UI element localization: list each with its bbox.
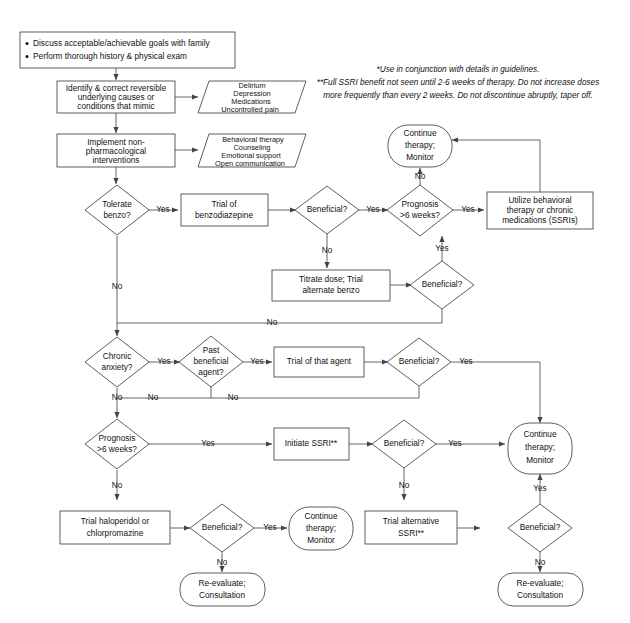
- chronic-line-2: anxiety?: [102, 362, 133, 372]
- node-beneficial-6[interactable]: Beneficial?: [508, 504, 572, 552]
- node-chronic-anxiety[interactable]: Chronic anxiety?: [85, 337, 149, 387]
- guideline-notes: *Use in conjunction with details in guid…: [317, 65, 599, 100]
- note-line-1: *Use in conjunction with details in guid…: [377, 65, 540, 74]
- continue2-line-3: Monitor: [526, 455, 554, 465]
- node-reeval-1[interactable]: Re-evaluate; Consultation: [180, 573, 265, 606]
- edge-label-beneficial4-yes: Yes: [448, 439, 461, 448]
- titrate-line-1: Titrate dose; Trial: [299, 274, 363, 284]
- identify-line-3: conditions that mimic: [77, 101, 154, 111]
- reeval1-line-1: Re-evaluate;: [198, 578, 245, 588]
- node-continue-2[interactable]: Continue therapy; Monitor: [508, 423, 572, 474]
- tolerate-line-1: Tolerate: [102, 199, 132, 209]
- edge-label-beneficial5-no: No: [217, 558, 228, 567]
- edge-label-prognosis2-yes: Yes: [201, 439, 214, 448]
- connector-utilize-to-continue1: [452, 140, 540, 192]
- edge-label-prognosis2-no: No: [112, 481, 123, 490]
- reeval1-line-2: Consultation: [199, 590, 246, 600]
- continue3-line-3: Monitor: [307, 535, 335, 545]
- node-trial-benzo[interactable]: Trial of benzodiazepine: [181, 194, 268, 226]
- prognosis2-line-2: >6 weeks?: [97, 444, 137, 454]
- continue2-line-1: Continue: [523, 429, 557, 439]
- titrate-line-2: alternate benzo: [302, 285, 360, 295]
- start-bullet-2: Perform thorough history & physical exam: [33, 51, 187, 61]
- node-mimic-list[interactable]: Delirium Depression Medications Uncontro…: [198, 81, 306, 114]
- edge-label-chronic-yes: Yes: [157, 357, 170, 366]
- node-past-agent[interactable]: Past beneficial agent?: [179, 336, 243, 387]
- flowchart-svg: Yes Yes Yes No No Yes No No Yes Yes Yes …: [0, 0, 630, 623]
- edge-label-chronic-no: No: [112, 393, 123, 402]
- halo-line-1: Trial haloperidol or: [81, 516, 150, 526]
- continue1-line-2: therapy;: [405, 140, 435, 150]
- node-trial-alt-ssri[interactable]: Trial alternative SSRI**: [365, 511, 457, 544]
- continue2-line-2: therapy;: [525, 442, 555, 452]
- reeval2-line-2: Consultation: [517, 590, 564, 600]
- continue1-line-1: Continue: [403, 128, 437, 138]
- node-utilize[interactable]: Utilize behavioral therapy or chronic me…: [487, 192, 593, 229]
- edge-label-beneficial6-no: No: [535, 558, 546, 567]
- tolerate-line-2: benzo?: [103, 210, 131, 220]
- node-beneficial-4[interactable]: Beneficial?: [372, 420, 436, 468]
- edge-label-beneficial3-no: No: [228, 393, 239, 402]
- node-prognosis-1[interactable]: Prognosis >6 weeks?: [387, 185, 453, 236]
- trialbenzo-line-2: benzodiazepine: [195, 210, 254, 220]
- node-tolerate-benzo[interactable]: Tolerate benzo?: [85, 185, 149, 235]
- edge-label-beneficial1-yes: Yes: [366, 205, 379, 214]
- start-bullet-1: Discuss acceptable/achievable goals with…: [33, 38, 210, 48]
- edge-label-tolerate-yes: Yes: [156, 205, 169, 214]
- edge-label-beneficial3-yes: Yes: [459, 357, 472, 366]
- flowchart-canvas: Yes Yes Yes No No Yes No No Yes Yes Yes …: [0, 0, 630, 623]
- edge-label-beneficial4-no: No: [399, 481, 410, 490]
- utilize-line-1: Utilize behavioral: [508, 195, 571, 205]
- edge-label-prognosis1-no: No: [415, 172, 426, 181]
- continue1-line-3: Monitor: [406, 152, 434, 162]
- node-beneficial-2[interactable]: Beneficial?: [410, 261, 474, 309]
- edge-label-beneficial2-yes: Yes: [435, 244, 448, 253]
- node-trial-halo[interactable]: Trial haloperidol or chlorpromazine: [60, 511, 170, 544]
- prognosis1-line-1: Prognosis: [402, 199, 439, 209]
- edge-label-beneficial5-yes: Yes: [263, 523, 276, 532]
- node-beneficial-3[interactable]: Beneficial?: [387, 338, 451, 386]
- trialagent-label: Trial of that agent: [287, 356, 352, 366]
- halo-line-2: chlorpromazine: [87, 528, 144, 538]
- node-beneficial-5[interactable]: Beneficial?: [190, 504, 254, 552]
- connector-beneficial2-no: [117, 309, 442, 336]
- initiate-ssri-label: Initiate SSRI**: [285, 438, 338, 448]
- pastagent-line-1: Past: [203, 345, 220, 355]
- bullet-icon: [26, 55, 29, 58]
- beneficial1-label: Beneficial?: [307, 204, 348, 214]
- beneficial2-label: Beneficial?: [422, 279, 463, 289]
- node-nonpharm-list[interactable]: Behavioral therapy Counseling Emotional …: [198, 134, 306, 168]
- node-prognosis-2[interactable]: Prognosis >6 weeks?: [85, 419, 149, 469]
- continue3-line-1: Continue: [304, 511, 338, 521]
- bullet-icon: [26, 42, 29, 45]
- node-continue-1[interactable]: Continue therapy; Monitor: [388, 125, 452, 167]
- node-titrate[interactable]: Titrate dose; Trial alternate benzo: [272, 270, 390, 301]
- pastagent-line-2: beneficial: [193, 356, 228, 366]
- edge-label-beneficial1-no: No: [322, 246, 333, 255]
- node-trial-agent[interactable]: Trial of that agent: [274, 347, 364, 377]
- implement-line-3: interventions: [92, 155, 139, 165]
- edge-label-pastagent-yes: Yes: [250, 357, 263, 366]
- note-line-3: more frequently than every 2 weeks. Do n…: [323, 91, 593, 100]
- reeval2-line-1: Re-evaluate;: [516, 578, 563, 588]
- altssri-line-1: Trial alternative: [383, 516, 440, 526]
- beneficial3-label: Beneficial?: [399, 356, 440, 366]
- edge-label-beneficial2-no: No: [267, 318, 278, 327]
- edge-label-pastagent-no: No: [148, 393, 159, 402]
- node-initiate-ssri[interactable]: Initiate SSRI**: [274, 428, 349, 460]
- node-reeval-2[interactable]: Re-evaluate; Consultation: [498, 573, 583, 606]
- node-beneficial-1[interactable]: Beneficial?: [295, 186, 359, 234]
- node-continue-3[interactable]: Continue therapy; Monitor: [289, 507, 353, 550]
- edge-label-prognosis1-yes: Yes: [461, 205, 474, 214]
- node-implement[interactable]: Implement non- pharmacological intervent…: [57, 134, 175, 167]
- node-start[interactable]: Discuss acceptable/achievable goals with…: [20, 32, 235, 68]
- prognosis1-line-2: >6 weeks?: [400, 210, 440, 220]
- node-identify[interactable]: Identify & correct reversible underlying…: [57, 81, 175, 113]
- mimic-line-4: Uncontrolled pain: [221, 105, 279, 114]
- connector-beneficial3-yes: [450, 362, 540, 423]
- edge-label-tolerate-no: No: [112, 282, 123, 291]
- connector-beneficial3-no: [117, 386, 419, 398]
- pastagent-line-3: agent?: [198, 367, 224, 377]
- note-line-2: **Full SSRI benefit not seen until 2-6 w…: [317, 78, 599, 87]
- trialbenzo-line-1: Trial of: [211, 199, 237, 209]
